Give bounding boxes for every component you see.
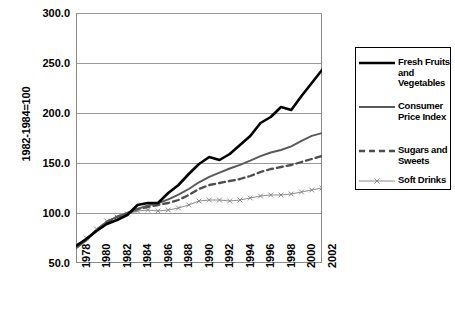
y-tick-label: 100.0	[22, 208, 70, 219]
x-tick-label: 1996	[265, 244, 276, 268]
x-tick-label: 1988	[183, 244, 194, 268]
legend-key-solid-thick-black-line	[358, 56, 396, 70]
series-thin-x-markers	[76, 186, 322, 248]
y-tick-label: 200.0	[22, 108, 70, 119]
legend-label: Soft Drinks	[398, 175, 455, 186]
x-tick-label: 1980	[101, 244, 112, 268]
legend-label: Sugars and Sweets	[398, 145, 455, 166]
y-tick-label: 300.0	[22, 8, 70, 19]
series-solid-gray	[76, 133, 322, 248]
series-line	[76, 188, 322, 245]
series-line	[76, 156, 322, 248]
legend-key-solid-gray-line	[358, 100, 396, 114]
x-tick-label: 1984	[142, 244, 153, 268]
x-tick-label: 1992	[224, 244, 235, 268]
x-tick-label: 1982	[122, 244, 133, 268]
x-tick-label: 1994	[245, 244, 256, 268]
x-tick-label: 1986	[163, 244, 174, 268]
x-tick-label: 2002	[327, 244, 338, 268]
y-axis-tick-labels: 50.0100.0150.0200.0250.0300.0	[22, 0, 70, 324]
x-tick-label: 1998	[286, 244, 297, 268]
legend-label: Consumer Price Index	[398, 101, 455, 122]
x-axis-tick-labels: 1978198019821984198619881990199219941996…	[76, 268, 322, 324]
y-tick-label: 150.0	[22, 158, 70, 169]
x-tick-label: 1978	[81, 244, 92, 268]
series-dashed-gray	[76, 156, 322, 248]
chart-legend: Fresh Fruits and VegetablesConsumer Pric…	[355, 47, 451, 190]
plot-area	[76, 13, 322, 263]
x-tick-label: 1990	[204, 244, 215, 268]
legend-key-dashed-gray-line	[358, 144, 396, 158]
series-marker	[186, 203, 191, 208]
y-tick-label: 250.0	[22, 58, 70, 69]
series-line	[76, 133, 322, 248]
y-tick-label: 50.0	[22, 258, 70, 269]
x-tick-label: 2000	[306, 244, 317, 268]
legend-key-x-marker-line	[358, 174, 396, 188]
plot-svg	[76, 13, 322, 263]
legend-label: Fresh Fruits and Vegetables	[398, 57, 455, 89]
